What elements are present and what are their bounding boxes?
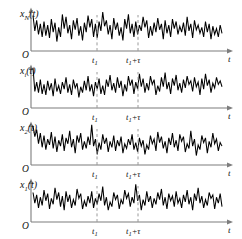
origin-label-panel-2: O	[22, 107, 29, 117]
tick-label-t1tau-panel-3: t1+τ	[126, 169, 141, 180]
tick-label-t1tau-panel-4: t1+τ	[126, 226, 141, 237]
origin-label-panel-4: O	[22, 221, 29, 231]
tick-label-t1tau-panel-2: t1+τ	[126, 112, 141, 123]
origin-label-panel-3: O	[22, 164, 29, 174]
random-process-ensemble-figure: xN(t) O t t1 t1+τ xi(t) O t t1 t1+τ	[0, 0, 242, 239]
origin-label-panel-1: O	[22, 50, 29, 60]
panel-label-xi: xi(t)	[19, 65, 36, 78]
figure-canvas: xN(t) O t t1 t1+τ xi(t) O t t1 t1+τ	[0, 0, 242, 239]
panel-label-x2: x2(t)	[19, 122, 38, 135]
tick-label-t1tau-panel-1: t1+τ	[126, 55, 141, 66]
panel-label-x1: x1(t)	[19, 179, 38, 192]
figure-background	[0, 0, 242, 239]
